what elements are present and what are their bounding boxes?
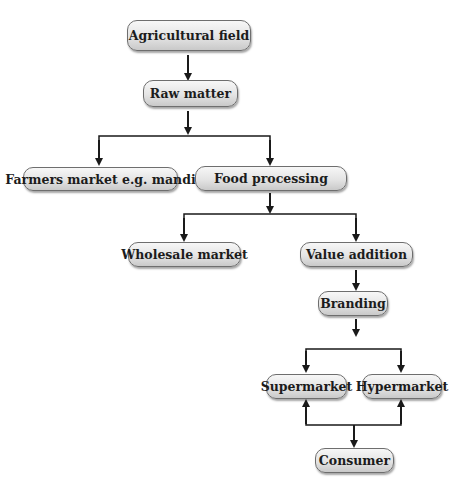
node-agricultural-field: Agricultural field [127,20,251,51]
node-raw-matter: Raw matter [143,80,238,107]
node-supermarket: Supermarket [266,374,347,399]
supply-chain-flowchart: Agricultural field Raw matter Farmers ma… [0,0,462,489]
node-farmers-market: Farmers market e.g. mandi [23,167,178,191]
node-food-processing: Food processing [195,166,347,191]
node-hypermarket: Hypermarket [362,374,442,399]
node-value-addition: Value addition [300,242,413,267]
node-wholesale-market: Wholesale market [128,242,241,267]
node-branding: Branding [318,291,388,316]
node-consumer: Consumer [315,448,394,473]
